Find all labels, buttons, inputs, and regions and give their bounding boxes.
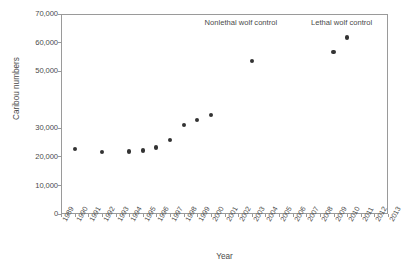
data-point — [100, 150, 104, 154]
data-point — [331, 50, 335, 54]
chart-annotation: Nonlethal wolf control — [205, 19, 278, 27]
data-points-layer — [61, 14, 388, 214]
data-point — [345, 35, 349, 39]
chart-annotation: Lethal wolf control — [311, 19, 372, 27]
data-point — [168, 138, 172, 142]
data-point — [250, 59, 254, 63]
caribou-numbers-scatter-chart: 010,00020,00030,00050,00060,00070,000 Ca… — [0, 0, 409, 270]
x-axis-title: Year — [61, 252, 388, 261]
data-point — [127, 149, 131, 153]
data-point — [141, 148, 145, 152]
data-point — [182, 123, 186, 127]
data-point — [73, 147, 77, 151]
y-axis-title: Caribou numbers — [12, 39, 21, 139]
data-point — [209, 113, 213, 117]
data-point — [195, 118, 199, 122]
data-point — [154, 145, 158, 149]
x-axis-tick-label: 2013 — [388, 205, 402, 222]
x-axis: 1989199019911992199319941995199619971998… — [0, 214, 409, 270]
